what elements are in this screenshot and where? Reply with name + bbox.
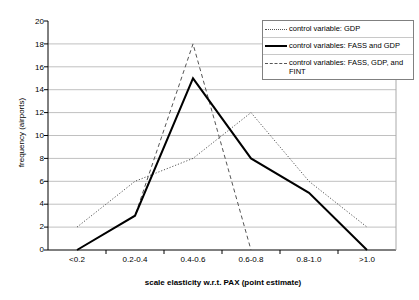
chart-figure: frequency (airports) scale elasticity w.… — [0, 0, 419, 300]
legend-item-fass-gdp[interactable]: control variables: FASS and GDP — [263, 38, 413, 55]
series-line-gdp — [77, 113, 367, 228]
legend-item-fass-gdp-fint[interactable]: control variables: FASS, GDP, and FINT — [263, 55, 413, 79]
dashed-line-icon — [265, 60, 287, 68]
y-tick-marks — [44, 21, 48, 250]
legend-item-gdp[interactable]: control variable: GDP — [263, 21, 413, 38]
legend-label-fass-gdp-fint: control variables: FASS, GDP, and FINT — [287, 58, 410, 76]
legend-label-gdp: control variable: GDP — [287, 24, 360, 33]
dotted-line-icon — [265, 26, 287, 34]
legend-label-fass-gdp: control variables: FASS and GDP — [287, 41, 400, 50]
series-line-fass-gdp — [77, 78, 367, 250]
x-tick-marks — [106, 250, 338, 254]
legend: control variable: GDP control variables:… — [262, 20, 414, 80]
solid-line-icon — [265, 43, 287, 51]
